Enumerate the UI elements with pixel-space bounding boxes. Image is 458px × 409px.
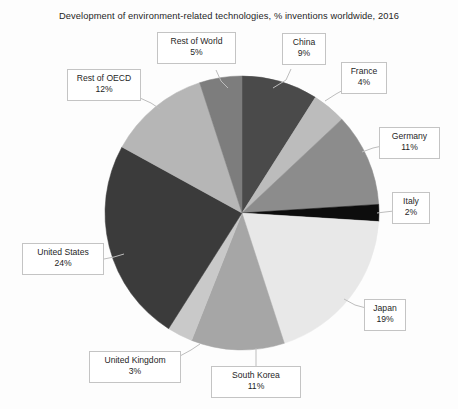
slice-label-name: United Kingdom [96, 355, 174, 366]
slice-label-value: 12% [74, 84, 134, 95]
slice-label-value: 19% [371, 314, 399, 325]
slice-label-value: 4% [348, 77, 380, 88]
slice-label-value: 9% [289, 48, 319, 59]
slice-label-name: Rest of OECD [74, 73, 134, 84]
slice-label-name: China [289, 37, 319, 48]
slice-label-value: 11% [218, 381, 294, 392]
slice-label-china[interactable]: China 9% [282, 33, 326, 65]
pie-chart-figure: Development of environment-related techn… [0, 0, 458, 409]
slice-label-japan[interactable]: Japan 19% [364, 299, 406, 331]
slice-label-value: 24% [29, 258, 97, 269]
slice-label-rest-of-world[interactable]: Rest of World 5% [157, 32, 236, 64]
pie-slice-group [105, 76, 379, 350]
slice-label-value: 3% [96, 366, 174, 377]
slice-label-name: United States [29, 247, 97, 258]
slice-label-value: 11% [386, 142, 433, 153]
slice-label-united-kingdom[interactable]: United Kingdom 3% [89, 351, 181, 383]
slice-label-name: Japan [371, 303, 399, 314]
slice-label-value: 2% [399, 207, 423, 218]
slice-label-name: Italy [399, 196, 423, 207]
slice-label-italy[interactable]: Italy 2% [392, 192, 430, 224]
slice-label-france[interactable]: France 4% [341, 62, 387, 94]
slice-label-germany[interactable]: Germany 11% [379, 127, 440, 159]
slice-label-rest-of-oecd[interactable]: Rest of OECD 12% [67, 69, 141, 101]
slice-label-name: Rest of World [164, 36, 229, 47]
slice-label-name: France [348, 66, 380, 77]
slice-label-united-states[interactable]: United States 24% [22, 243, 104, 275]
slice-label-south-korea[interactable]: South Korea 11% [211, 366, 301, 398]
slice-label-name: Germany [386, 131, 433, 142]
slice-label-name: South Korea [218, 370, 294, 381]
slice-label-value: 5% [164, 47, 229, 58]
